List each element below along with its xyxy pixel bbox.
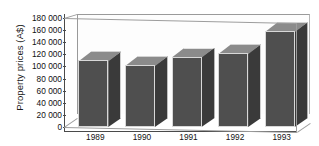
bar-front-face <box>78 60 108 127</box>
y-axis-tick-label: 0 <box>18 122 62 132</box>
x-axis-tick-label: 1992 <box>226 132 244 142</box>
bar-side-face <box>248 44 261 127</box>
bar-side-face <box>155 56 168 127</box>
x-axis-tick-label: 1991 <box>179 132 197 142</box>
bar-front-face <box>265 31 295 127</box>
bar-side-face <box>202 48 215 127</box>
bar-1992 <box>218 44 261 127</box>
plot-area <box>64 14 310 132</box>
x-axis-tick-label: 1990 <box>133 132 151 142</box>
y-axis-tick-label: 140 000 <box>18 37 62 47</box>
bar-1990 <box>125 56 168 127</box>
y-axis-tick-label: 100 000 <box>18 61 62 71</box>
frame-right-front-edge <box>296 23 297 132</box>
y-axis-tick-label: 60 000 <box>18 86 62 96</box>
bar-front-face <box>172 57 202 127</box>
x-axis-tick-labels: 19891990199119921993 <box>64 132 310 146</box>
y-axis-tick-label: 160 000 <box>18 25 62 35</box>
x-axis-tick-label: 1989 <box>86 132 104 142</box>
y-axis-tick-labels: 020 00040 00060 00080 000100 000120 0001… <box>18 0 62 146</box>
bar-1989 <box>78 51 121 127</box>
y-axis-tick-label: 40 000 <box>18 98 62 108</box>
property-prices-bar-chart: Property prices (A$) 020 00040 00060 000… <box>0 0 319 146</box>
y-axis-tick-label: 20 000 <box>18 110 62 120</box>
bar-front-face <box>218 53 248 127</box>
y-axis-tick-label: 120 000 <box>18 49 62 59</box>
x-axis-tick-label: 1993 <box>272 132 290 142</box>
y-axis-tick-label: 180 000 <box>18 13 62 23</box>
bar-1993 <box>265 22 308 127</box>
y-axis-tick-label: 80 000 <box>18 74 62 84</box>
bar-front-face <box>125 65 155 127</box>
bar-side-face <box>108 51 121 127</box>
bars-layer <box>64 14 310 132</box>
bar-1991 <box>172 48 215 127</box>
